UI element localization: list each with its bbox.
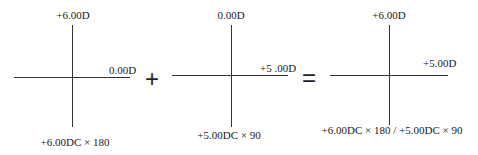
vertical-meridian: [72, 25, 73, 127]
right-power-label: +5 .00D: [260, 62, 296, 74]
top-power-label: +6.00D: [56, 9, 89, 21]
top-power-label: 0.00D: [217, 9, 244, 21]
cylinder-label: +6.00DC × 180: [41, 136, 110, 148]
right-power-label: 0.00D: [109, 64, 136, 76]
horizontal-meridian: [330, 75, 448, 76]
right-power-label: +5.00D: [423, 57, 456, 69]
top-power-label: +6.00D: [372, 9, 405, 21]
horizontal-meridian: [14, 77, 130, 78]
vertical-meridian: [231, 25, 232, 127]
plus-operator: +: [145, 67, 159, 91]
cylinder-label: +5.00DC × 90: [197, 129, 260, 141]
horizontal-meridian: [172, 75, 288, 76]
equals-operator: =: [302, 66, 316, 90]
spherocylinder-label: +6.00DC × 180 / +5.00DC × 90: [322, 124, 463, 136]
